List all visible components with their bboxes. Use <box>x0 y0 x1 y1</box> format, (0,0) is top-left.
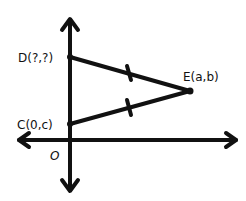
segment-CE <box>70 91 190 124</box>
x-axis <box>19 133 236 147</box>
point-C <box>67 121 73 127</box>
point-E <box>187 88 194 95</box>
point-D-label: D(?,?) <box>18 51 53 65</box>
y-axis <box>62 19 78 191</box>
congruence-tick-mark <box>127 66 131 80</box>
point-D <box>67 54 73 60</box>
segment-DE <box>70 57 190 91</box>
point-C-label: C(0,c) <box>17 118 53 132</box>
origin-label: O <box>50 149 59 163</box>
point-E-label: E(a,b) <box>183 70 219 84</box>
coordinate-diagram: D(?,?) C(0,c) E(a,b) O <box>0 0 246 201</box>
congruence-tick-mark <box>127 100 131 115</box>
